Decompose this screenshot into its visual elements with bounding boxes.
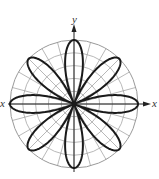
polar-rose-chart: [0, 0, 159, 179]
x-axis-label-left: x: [0, 98, 5, 109]
x-axis-arrow-icon: [143, 102, 151, 107]
y-axis-label: y: [72, 14, 77, 25]
y-axis-arrow-icon: [72, 24, 77, 32]
x-axis-label-right: x: [152, 98, 157, 109]
